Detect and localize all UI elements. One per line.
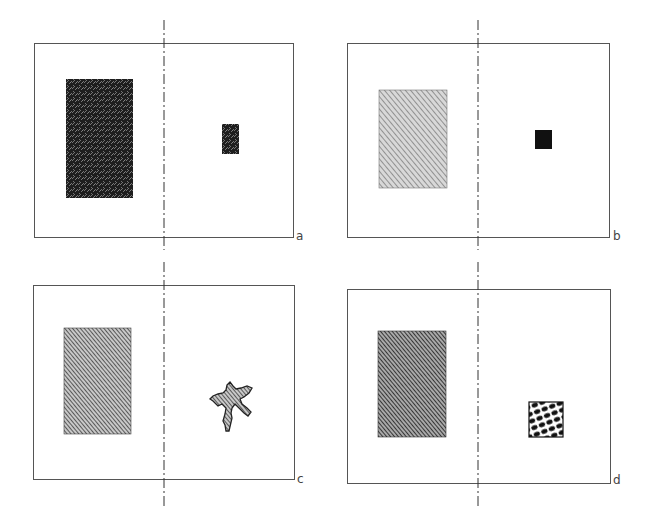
panel-a-small-rectangle — [222, 124, 239, 154]
diagram-canvas — [0, 0, 651, 521]
panel-c-label: c — [297, 473, 304, 485]
panel-a — [35, 20, 294, 250]
panel-c-large-rectangle — [64, 328, 131, 434]
panel-c — [34, 262, 295, 508]
panel-d-large-rectangle — [378, 331, 446, 437]
panel-b — [348, 20, 610, 250]
panel-c-irregular-blob — [210, 382, 252, 431]
panel-b-small-square — [535, 130, 552, 149]
panel-b-label: b — [613, 230, 621, 242]
panel-a-large-rectangle — [66, 79, 133, 198]
panel-d-small-square — [529, 402, 563, 437]
panel-b-large-rectangle — [379, 90, 447, 188]
panel-d-label: d — [613, 474, 621, 486]
panel-a-label: a — [296, 230, 303, 242]
panel-d — [348, 262, 611, 508]
